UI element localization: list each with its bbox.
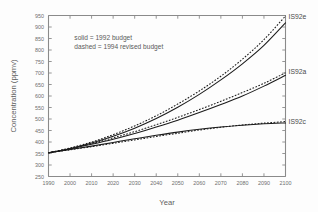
y-tick-label: 800 (35, 47, 44, 53)
x-tick-label: 2060 (193, 180, 205, 186)
x-tick-label: 2010 (86, 180, 98, 186)
label-is92a: IS92a (289, 68, 307, 75)
y-tick-label: 350 (35, 151, 44, 157)
y-tick-label: 850 (35, 36, 44, 42)
legend-solid: solid = 1992 budget (74, 34, 132, 42)
y-tick-label: 400 (35, 139, 44, 145)
y-tick-label: 500 (35, 116, 44, 122)
x-axis-tick-labels: 1990200020102020203020402050206020702080… (43, 180, 292, 186)
y-tick-label: 700 (35, 70, 44, 76)
y-tick-label: 750 (35, 59, 44, 65)
label-is92e: IS92e (289, 13, 307, 20)
curve-is92a-solid (49, 75, 286, 153)
legend-annotations: solid = 1992 budgetdashed = 1994 revised… (74, 34, 163, 51)
scenario-labels: IS92eIS92aIS92c (289, 13, 307, 125)
x-tick-label: 2100 (280, 180, 292, 186)
legend-dashed: dashed = 1994 revised budget (74, 43, 163, 51)
curve-is92c-dashed (49, 122, 286, 153)
y-tick-label: 250 (35, 174, 44, 180)
y-tick-label: 600 (35, 93, 44, 99)
y-tick-label: 550 (35, 105, 44, 111)
x-tick-label: 2090 (258, 180, 270, 186)
x-tick-label: 2080 (236, 180, 248, 186)
x-axis-title: Year (159, 198, 175, 207)
curve-is92c-solid (49, 123, 286, 153)
y-axis-title: Concentration (ppmv) (9, 59, 18, 132)
y-tick-label: 900 (35, 24, 44, 30)
x-tick-label: 2040 (150, 180, 162, 186)
concentration-line-chart: 2503003504004505005506006507007508008509… (0, 0, 318, 212)
x-tick-label: 1990 (43, 180, 55, 186)
figure-canvas: 2503003504004505005506006507007508008509… (0, 0, 318, 212)
y-axis-tick-labels: 2503003504004505005506006507007508008509… (35, 13, 44, 180)
x-tick-label: 2050 (172, 180, 184, 186)
x-tick-label: 2030 (129, 180, 141, 186)
y-tick-label: 450 (35, 128, 44, 134)
label-is92c: IS92c (289, 118, 307, 125)
x-tick-label: 2020 (107, 180, 119, 186)
y-tick-label: 650 (35, 82, 44, 88)
y-tick-label: 300 (35, 162, 44, 168)
x-tick-label: 2000 (64, 180, 76, 186)
x-tick-label: 2070 (215, 180, 227, 186)
y-tick-label: 950 (35, 13, 44, 19)
